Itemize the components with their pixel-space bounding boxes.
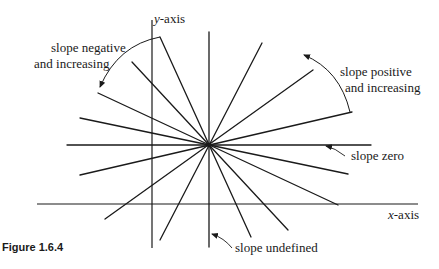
label-slope-undefined: slope undefined <box>235 240 318 255</box>
leader-slope-zero <box>326 146 345 156</box>
slope-diagram: y-axis slope negative and increasing slo… <box>0 0 439 269</box>
label-slope-negative-2: and increasing <box>34 56 109 71</box>
label-slope-positive-1: slope positive <box>340 64 412 79</box>
center-point <box>207 143 211 147</box>
label-slope-positive-2: and increasing <box>345 80 420 95</box>
radiating-lines <box>67 32 371 247</box>
line-pos-steep <box>160 43 262 240</box>
label-slope-negative-1: slope negative <box>51 40 126 55</box>
line-neg-shallow <box>98 93 338 205</box>
x-axis-label: x-axis <box>388 207 419 222</box>
figure-caption: Figure 1.6.4 <box>2 241 63 253</box>
leader-slope-undefined <box>212 234 232 248</box>
label-slope-zero: slope zero <box>351 148 404 163</box>
line-pos-flat <box>80 112 352 175</box>
y-axis-label: y-axis <box>154 11 185 26</box>
